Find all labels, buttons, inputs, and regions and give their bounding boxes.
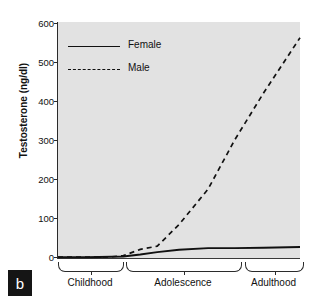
legend-label: Female (128, 39, 161, 50)
y-tick-label: 400 (28, 97, 54, 107)
brace-icon (58, 262, 124, 272)
brace-icon (126, 262, 242, 272)
y-tick-label: 100 (28, 214, 54, 224)
x-axis-line (57, 258, 300, 259)
brace-icon (245, 262, 304, 272)
y-tick-label: 600 (28, 19, 54, 29)
y-axis-ticks: 600 500 400 300 200 100 0 (26, 0, 54, 302)
y-tick-label: 300 (28, 136, 54, 146)
series-line-female (58, 247, 300, 257)
stage-label: Childhood (58, 277, 122, 288)
legend-swatch-solid-line (68, 46, 120, 47)
stage-label: Adulthood (245, 277, 302, 288)
series-canvas (58, 22, 300, 258)
y-tick-label: 500 (28, 58, 54, 68)
series-line-male (58, 38, 300, 257)
stage-label: Adolescence (126, 277, 240, 288)
plot-area: Female Male (58, 22, 300, 258)
y-tick-label: 200 (28, 175, 54, 185)
y-tick-label: 0 (28, 253, 54, 263)
legend-label: Male (128, 62, 150, 73)
figure-panel-b: Testosterone (ng/dl) 600 500 400 300 200… (0, 0, 312, 302)
legend-swatch-dashed-line (68, 69, 120, 70)
panel-letter-badge: b (8, 270, 32, 296)
